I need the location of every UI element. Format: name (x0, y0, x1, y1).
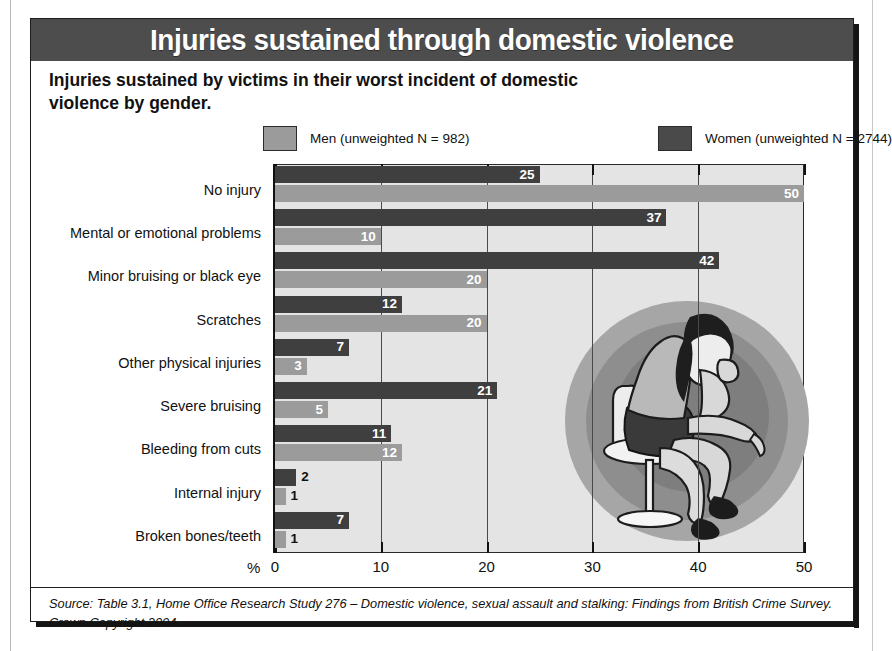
y-axis-label-3: Scratches (197, 313, 261, 328)
y-axis-label-4: Other physical injuries (118, 356, 261, 371)
y-axis-labels: No injuryMental or emotional problemsMin… (71, 164, 267, 553)
y-axis-label-7: Internal injury (174, 486, 261, 501)
legend-label-men: Men (unweighted N = 982) (310, 131, 469, 146)
bar-women-3: 12 (275, 296, 402, 313)
x-axis-unit-label: % (247, 559, 260, 576)
figure-subtitle: Injuries sustained by victims in their w… (49, 69, 649, 115)
bar-men-2: 20 (275, 271, 487, 288)
bar-value-label: 7 (337, 514, 345, 528)
bar-women-2: 42 (275, 252, 719, 269)
bar-women-0: 25 (275, 166, 540, 183)
legend-swatch-men (263, 126, 297, 151)
bar-value-label: 50 (784, 187, 799, 201)
bar-men-5: 5 (275, 401, 328, 418)
x-tick-label-20: 20 (478, 559, 495, 574)
x-axis-labels: 01020304050 (273, 559, 804, 581)
bar-value-label: 37 (646, 211, 661, 225)
bar-men-7: 1 (275, 488, 286, 505)
bar-value-label: 5 (315, 403, 323, 417)
chart-row: 1220 (275, 296, 804, 335)
chart-row: 21 (275, 469, 804, 508)
y-axis-label-1: Mental or emotional problems (70, 226, 261, 241)
bar-value-label: 1 (291, 489, 299, 503)
chart-row: 4220 (275, 252, 804, 291)
source-note: Source: Table 3.1, Home Office Research … (49, 595, 839, 632)
legend-swatch-women (658, 126, 692, 151)
chart-row: 2550 (275, 166, 804, 205)
chart-plot-area: 25503710422012207321511122171 (273, 164, 804, 553)
bar-value-label: 12 (382, 297, 397, 311)
tick-top-50 (804, 164, 806, 175)
x-tick-label-40: 40 (690, 559, 707, 574)
figure-container: Injuries sustained through domestic viol… (30, 18, 854, 622)
y-axis-label-8: Broken bones/teeth (135, 529, 261, 544)
bar-value-label: 2 (301, 470, 309, 484)
page-rule-right (872, 0, 873, 651)
x-tick-label-30: 30 (584, 559, 601, 574)
bar-women-6: 11 (275, 425, 391, 442)
source-divider (31, 587, 853, 588)
chart-legend: Men (unweighted N = 982) Women (unweight… (263, 126, 838, 154)
bar-men-8: 1 (275, 531, 286, 548)
x-tick-label-50: 50 (796, 559, 813, 574)
bar-men-6: 12 (275, 444, 402, 461)
legend-item-women: Women (unweighted N = 2744) (658, 126, 892, 151)
bar-women-4: 7 (275, 339, 349, 356)
tick-bottom-50 (804, 542, 806, 553)
legend-label-women: Women (unweighted N = 2744) (705, 131, 892, 146)
bar-value-label: 21 (477, 384, 492, 398)
bar-women-7: 2 (275, 469, 296, 486)
bar-value-label: 12 (382, 446, 397, 460)
y-axis-label-2: Minor bruising or black eye (88, 269, 261, 284)
y-axis-label-0: No injury (204, 183, 261, 198)
chart-bars: 25503710422012207321511122171 (273, 164, 804, 553)
legend-item-men: Men (unweighted N = 982) (263, 126, 469, 151)
bar-women-8: 7 (275, 512, 349, 529)
x-tick-label-0: 0 (271, 559, 279, 574)
chart-row: 215 (275, 382, 804, 421)
bar-men-4: 3 (275, 358, 307, 375)
bar-women-5: 21 (275, 382, 497, 399)
chart-row: 1112 (275, 425, 804, 464)
chart-row: 3710 (275, 209, 804, 248)
bar-men-3: 20 (275, 315, 487, 332)
figure-shadow-right (854, 24, 859, 628)
bar-men-0: 50 (275, 185, 804, 202)
bar-value-label: 10 (361, 230, 376, 244)
bar-women-1: 37 (275, 209, 666, 226)
bar-value-label: 7 (337, 341, 345, 355)
bar-value-label: 11 (372, 427, 386, 441)
figure-title-bar: Injuries sustained through domestic viol… (31, 19, 853, 61)
chart-row: 71 (275, 512, 804, 551)
bar-value-label: 3 (294, 360, 302, 374)
chart-row: 73 (275, 339, 804, 378)
bar-value-label: 20 (467, 316, 482, 330)
bar-value-label: 20 (467, 273, 482, 287)
bar-value-label: 1 (291, 533, 299, 547)
bar-men-1: 10 (275, 228, 381, 245)
bar-value-label: 25 (519, 168, 534, 182)
y-axis-label-5: Severe bruising (160, 399, 261, 414)
y-axis-label-6: Bleeding from cuts (141, 442, 261, 457)
bar-value-label: 42 (699, 254, 714, 268)
page-title: Injuries sustained through domestic viol… (150, 23, 734, 57)
page-rule-left (10, 0, 11, 651)
x-tick-label-10: 10 (372, 559, 389, 574)
